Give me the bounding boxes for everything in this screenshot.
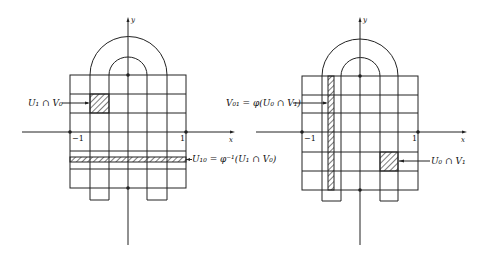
arrow-icon <box>186 158 190 161</box>
hatched-strip-U10 <box>70 157 186 162</box>
y-axis-label: y <box>130 16 136 24</box>
diagram-canvas: y x −1 1 U₁ ∩ V₀ <box>0 0 488 260</box>
hatched-strip-V01 <box>328 76 334 190</box>
tick-one: 1 <box>412 134 417 143</box>
point <box>358 74 362 78</box>
label-U1-cap-V0: U₁ ∩ V₀ <box>28 98 63 108</box>
left-figure: y x −1 1 U₁ ∩ V₀ <box>22 16 277 245</box>
y-axis-arrow-icon <box>359 17 362 22</box>
point <box>358 188 362 192</box>
y-axis-arrow-icon <box>127 17 130 22</box>
hatched-cell-U0-V1 <box>380 152 398 171</box>
arrow-icon <box>399 160 404 163</box>
x-axis-arrow-icon <box>230 131 235 134</box>
point <box>126 186 130 190</box>
tick-one: 1 <box>180 134 185 143</box>
tick-neg-one: −1 <box>72 134 84 143</box>
hatched-cell-U1-V0 <box>90 94 109 113</box>
x-axis-label: x <box>461 136 465 144</box>
x-axis-label: x <box>229 136 233 144</box>
x-axis-arrow-icon <box>462 131 467 134</box>
right-figure: y x −1 1 V₀₁ = φ(U₀ ∩ V₁) <box>226 16 467 245</box>
label-U10: U₁₀ = φ⁻¹(U₁ ∩ V₀) <box>192 154 277 164</box>
y-axis-label: y <box>362 16 368 24</box>
point <box>126 73 130 77</box>
label-V01: V₀₁ = φ(U₀ ∩ V₁) <box>226 98 301 108</box>
label-U0-cap-V1: U₀ ∩ V₁ <box>431 156 466 166</box>
arrow-icon <box>85 102 90 105</box>
arrow-icon <box>323 102 328 105</box>
tick-neg-one: −1 <box>304 134 316 143</box>
